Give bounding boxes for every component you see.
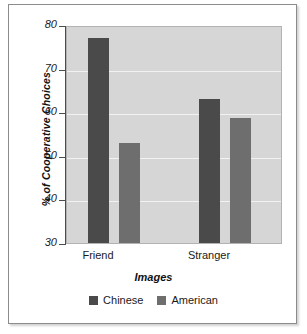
legend-swatch-icon-american [157, 296, 166, 305]
y-tick-60 [59, 113, 66, 114]
legend-label-american: American [171, 294, 217, 306]
legend-label-chinese: Chinese [103, 294, 143, 306]
x-tick-label-stranger: Stranger [149, 249, 269, 261]
y-tick-label-30: 30 [31, 236, 57, 248]
figure-frame: % of Cooperative Choices 80 70 60 50 40 … [8, 4, 297, 324]
bar-friend-american [119, 143, 140, 243]
y-tick-40 [59, 200, 66, 201]
legend-item-chinese: Chinese [89, 294, 143, 306]
plot-area [66, 26, 282, 244]
y-tick-label-50: 50 [31, 149, 57, 161]
y-tick-label-80: 80 [31, 18, 57, 30]
chart-legend: Chinese American [9, 294, 298, 306]
bar-friend-chinese [88, 38, 109, 243]
y-tick-label-40: 40 [31, 192, 57, 204]
y-tick-70 [59, 70, 66, 71]
x-axis-title: Images [9, 271, 298, 283]
y-tick-80 [59, 26, 66, 27]
y-tick-label-70: 70 [31, 62, 57, 74]
bar-stranger-american [230, 118, 251, 243]
bar-stranger-chinese [199, 99, 220, 243]
y-tick-label-60: 60 [31, 105, 57, 117]
y-tick-50 [59, 157, 66, 158]
legend-item-american: American [157, 294, 217, 306]
x-tick-label-friend: Friend [38, 249, 158, 261]
legend-swatch-icon-chinese [89, 296, 98, 305]
y-tick-30 [59, 244, 66, 245]
